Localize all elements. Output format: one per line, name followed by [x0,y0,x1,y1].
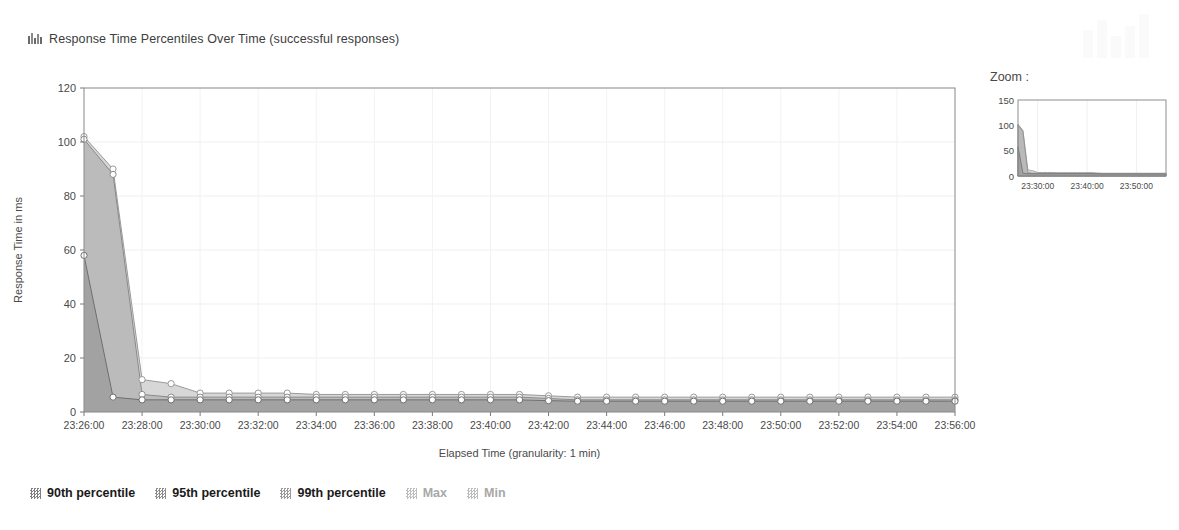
page-title: Response Time Percentiles Over Time (suc… [49,32,399,46]
svg-text:23:36:00: 23:36:00 [354,419,395,431]
legend-label-95th: 95th percentile [172,486,260,500]
svg-text:Response Time in ms: Response Time in ms [12,197,24,303]
main-chart-svg[interactable]: 020406080100120Response Time in ms23:26:… [0,60,980,470]
svg-text:150: 150 [998,95,1014,106]
svg-text:23:56:00: 23:56:00 [935,419,976,431]
legend-item-90th[interactable]: 90th percentile [30,486,135,500]
legend-swatch-95th [155,488,166,499]
svg-text:23:34:00: 23:34:00 [296,419,337,431]
legend-item-99th[interactable]: 99th percentile [280,486,385,500]
svg-text:23:50:00: 23:50:00 [760,419,801,431]
legend-item-max[interactable]: Max [406,486,447,500]
chart-header: Response Time Percentiles Over Time (suc… [28,30,399,48]
zoom-minimap-svg[interactable]: 05010015023:30:0023:40:0023:50:00 [990,94,1170,204]
svg-text:23:32:00: 23:32:00 [238,419,279,431]
svg-text:100: 100 [58,136,76,148]
legend-item-min[interactable]: Min [467,486,506,500]
svg-text:Elapsed Time (granularity: 1 m: Elapsed Time (granularity: 1 min) [439,447,600,459]
zoom-minimap[interactable]: 05010015023:30:0023:40:0023:50:00 [990,94,1175,204]
legend-swatch-max [406,488,417,499]
zoom-label: Zoom : [990,70,1175,84]
watermark-artifact [1081,12,1173,58]
svg-text:60: 60 [64,244,76,256]
svg-text:20: 20 [64,352,76,364]
svg-text:23:40:00: 23:40:00 [1071,181,1104,191]
svg-text:23:38:00: 23:38:00 [412,419,453,431]
legend-label-90th: 90th percentile [47,486,135,500]
bar-chart-icon [28,30,42,48]
svg-text:23:30:00: 23:30:00 [1021,181,1054,191]
svg-text:120: 120 [58,82,76,94]
svg-text:80: 80 [64,190,76,202]
legend-item-95th[interactable]: 95th percentile [155,486,260,500]
legend-swatch-min [467,488,478,499]
svg-text:23:30:00: 23:30:00 [180,419,221,431]
svg-text:23:26:00: 23:26:00 [64,419,105,431]
svg-text:23:40:00: 23:40:00 [470,419,511,431]
svg-text:50: 50 [1003,145,1014,156]
svg-text:23:28:00: 23:28:00 [122,419,163,431]
svg-text:23:42:00: 23:42:00 [528,419,569,431]
svg-text:23:44:00: 23:44:00 [586,419,627,431]
svg-text:23:46:00: 23:46:00 [644,419,685,431]
legend: 90th percentile 95th percentile 99th per… [30,486,506,500]
legend-swatch-90th [30,488,41,499]
main-chart[interactable]: 020406080100120Response Time in ms23:26:… [0,60,980,470]
svg-text:23:50:00: 23:50:00 [1120,181,1153,191]
legend-label-min: Min [484,486,506,500]
svg-text:40: 40 [64,298,76,310]
legend-label-99th: 99th percentile [297,486,385,500]
legend-label-max: Max [423,486,447,500]
svg-text:23:54:00: 23:54:00 [876,419,917,431]
svg-text:23:52:00: 23:52:00 [818,419,859,431]
zoom-panel: Zoom : 05010015023:30:0023:40:0023:50:00 [990,70,1175,204]
legend-swatch-99th [280,488,291,499]
svg-text:23:48:00: 23:48:00 [702,419,743,431]
svg-text:0: 0 [70,406,76,418]
svg-text:100: 100 [998,120,1014,131]
svg-text:0: 0 [1009,171,1014,182]
